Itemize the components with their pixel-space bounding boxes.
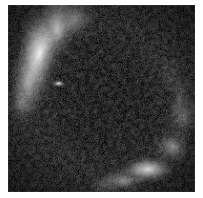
image-alt-text: Grayscale image of a partial ring of emi… <box>0 0 1 1</box>
astronomical-image <box>8 5 195 192</box>
corner-vignette <box>8 5 195 192</box>
image-viewport: Grayscale image of a partial ring of emi… <box>0 0 203 198</box>
